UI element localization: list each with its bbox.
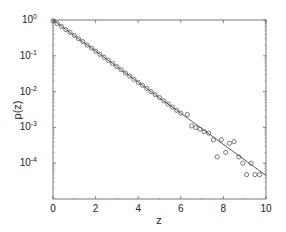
y-tick-label: 10-1 — [20, 49, 37, 61]
data-point — [185, 112, 189, 116]
x-tick-label: 8 — [221, 203, 227, 214]
x-axis-label: z — [156, 214, 162, 226]
x-tick-label: 0 — [50, 203, 56, 214]
y-tick-label: 10-4 — [20, 156, 37, 168]
y-tick-label: 10-2 — [20, 85, 37, 97]
y-axis: 10010-110-210-310-4 — [20, 13, 266, 188]
data-point — [215, 155, 219, 159]
data-point — [219, 138, 223, 142]
data-point — [232, 140, 236, 144]
data-point — [211, 138, 215, 142]
plot-border — [53, 20, 266, 199]
data-point — [194, 126, 198, 130]
x-axis: 0246810 — [50, 20, 272, 214]
data-point — [241, 161, 245, 165]
y-axis-label: p(z) — [11, 101, 23, 120]
y-tick-label: 100 — [22, 13, 37, 25]
data-points — [51, 19, 262, 177]
data-point — [227, 141, 231, 145]
plot-frame — [53, 20, 266, 199]
chart-svg: 0246810 10010-110-210-310-4 z p(z) — [0, 0, 286, 232]
x-tick-label: 6 — [178, 203, 184, 214]
data-point — [224, 150, 228, 154]
x-tick-label: 10 — [260, 203, 272, 214]
data-point — [253, 173, 257, 177]
fit-line — [53, 20, 266, 175]
x-tick-label: 2 — [93, 203, 99, 214]
data-point — [190, 124, 194, 128]
data-point — [245, 173, 249, 177]
y-tick-label: 10-3 — [20, 120, 37, 132]
x-tick-label: 4 — [135, 203, 141, 214]
data-point — [258, 173, 262, 177]
